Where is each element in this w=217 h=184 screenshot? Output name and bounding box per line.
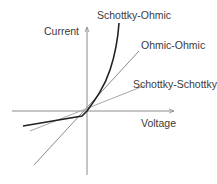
x-axis-label: Voltage [141,118,176,129]
iv-diagram [0,0,217,184]
y-axis-label: Current [44,26,79,37]
label-ohmic-ohmic: Ohmic-Ohmic [141,40,205,51]
label-schottky-ohmic: Schottky-Ohmic [97,10,171,21]
label-schottky-schottky: Schottky-Schottky [133,79,217,90]
curve-schottky-schottky [30,85,146,131]
